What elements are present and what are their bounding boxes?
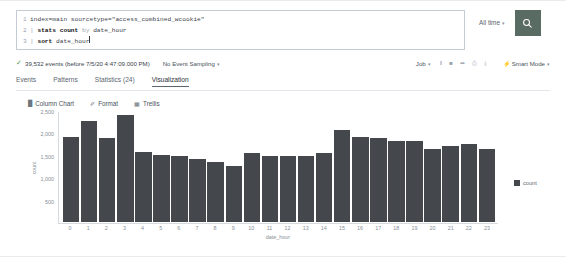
bar-slot bbox=[117, 112, 133, 222]
bar-slot bbox=[352, 112, 368, 222]
event-sampling-label: No Event Sampling bbox=[163, 60, 215, 67]
smart-mode-dropdown[interactable]: ⚡Smart Mode▾ bbox=[503, 60, 550, 67]
x-axis-tick-3: 3 bbox=[116, 225, 133, 231]
bar-21[interactable] bbox=[442, 146, 458, 222]
bar-11[interactable] bbox=[262, 156, 278, 222]
event-sampling-dropdown[interactable]: No Event Sampling▾ bbox=[163, 60, 220, 67]
bar-13[interactable] bbox=[298, 156, 314, 222]
bar-3[interactable] bbox=[117, 115, 133, 222]
y-axis-title: count bbox=[31, 162, 37, 175]
bar-22[interactable] bbox=[461, 144, 477, 222]
chevron-down-icon: ▾ bbox=[217, 61, 220, 67]
job-menu-dropdown[interactable]: Job▾ bbox=[416, 60, 431, 67]
bar-slot bbox=[226, 112, 242, 222]
pause-icon[interactable]: ‖ bbox=[440, 60, 442, 66]
bar-slot bbox=[370, 112, 386, 222]
bar-slot bbox=[262, 112, 278, 222]
search-line-3-command: sort bbox=[37, 36, 52, 47]
search-line-3-field: date_hour bbox=[52, 36, 89, 47]
job-control-icons: ‖ ■ ➦ ⎙ ⤓ bbox=[440, 60, 487, 66]
tab-visualization[interactable]: Visualization bbox=[152, 76, 189, 87]
search-icon bbox=[522, 18, 533, 29]
chart-toolbar: █ Column Chart ✐ Format ▦ Trellis bbox=[28, 97, 176, 109]
search-query-input[interactable]: 1 index=main sourcetype="access_combined… bbox=[16, 10, 465, 50]
bar-1[interactable] bbox=[81, 121, 97, 222]
search-submit-button[interactable] bbox=[515, 10, 541, 36]
tab-statistics[interactable]: Statistics (24) bbox=[95, 76, 135, 86]
bar-slot bbox=[63, 112, 79, 222]
bar-10[interactable] bbox=[244, 153, 260, 222]
x-axis-tick-0: 0 bbox=[62, 225, 79, 231]
x-axis-tick-12: 12 bbox=[279, 225, 296, 231]
x-axis-tick-11: 11 bbox=[261, 225, 278, 231]
stop-icon[interactable]: ■ bbox=[449, 60, 453, 66]
y-axis-tick-1000: 1,000 bbox=[41, 176, 55, 182]
bar-slot bbox=[207, 112, 223, 222]
search-line-3: 3 | sort date_hour bbox=[20, 36, 460, 47]
bar-0[interactable] bbox=[63, 137, 79, 222]
share-icon[interactable]: ➦ bbox=[460, 60, 465, 66]
chart-type-selector[interactable]: █ Column Chart bbox=[28, 100, 74, 107]
bar-6[interactable] bbox=[171, 156, 187, 222]
time-range-label: All time bbox=[479, 19, 500, 26]
x-axis-tick-14: 14 bbox=[316, 225, 333, 231]
bar-2[interactable] bbox=[99, 138, 115, 222]
bar-7[interactable] bbox=[189, 159, 205, 222]
download-icon[interactable]: ⤓ bbox=[484, 60, 487, 66]
bar-5[interactable] bbox=[153, 155, 169, 222]
bar-slot bbox=[99, 112, 115, 222]
column-chart: count 5001,0001,5002,0002,500 0123456789… bbox=[16, 112, 550, 244]
x-axis-tick-8: 8 bbox=[207, 225, 224, 231]
bar-4[interactable] bbox=[135, 152, 151, 222]
text-cursor bbox=[89, 36, 90, 43]
search-line-2-keyword: by bbox=[78, 25, 93, 36]
time-range-picker[interactable]: All time▾ bbox=[479, 10, 505, 36]
chart-format-label: Format bbox=[98, 100, 118, 107]
bar-19[interactable] bbox=[406, 141, 422, 222]
search-line-2: 2 | stats count by date_hour bbox=[20, 25, 460, 36]
line-number-1: 1 bbox=[20, 14, 30, 25]
bar-slot bbox=[244, 112, 260, 222]
line-number-2: 2 bbox=[20, 25, 30, 36]
page-top-border bbox=[0, 0, 566, 1]
bar-slot bbox=[316, 112, 332, 222]
x-axis-tick-labels: 01234567891011121314151617181920212223 bbox=[59, 225, 498, 231]
bar-slot bbox=[461, 112, 477, 222]
bar-15[interactable] bbox=[334, 130, 350, 222]
bolt-icon: ⚡ bbox=[503, 60, 511, 67]
tab-events[interactable]: Events bbox=[16, 76, 36, 86]
bar-8[interactable] bbox=[207, 162, 223, 222]
bar-18[interactable] bbox=[388, 141, 404, 222]
format-icon: ✐ bbox=[90, 100, 95, 107]
chart-format-button[interactable]: ✐ Format bbox=[90, 100, 118, 107]
bar-12[interactable] bbox=[280, 156, 296, 222]
bar-slot bbox=[189, 112, 205, 222]
legend-swatch-count bbox=[514, 180, 520, 186]
y-axis-tick-500: 500 bbox=[45, 199, 54, 205]
print-icon[interactable]: ⎙ bbox=[472, 60, 477, 66]
bar-17[interactable] bbox=[370, 138, 386, 222]
bar-16[interactable] bbox=[352, 137, 368, 222]
bar-20[interactable] bbox=[424, 149, 440, 222]
x-axis-tick-6: 6 bbox=[171, 225, 188, 231]
chart-trellis-label: Trellis bbox=[143, 100, 160, 107]
event-count-label: 39,532 events (before 7/5/20 4:47:09.000… bbox=[25, 60, 150, 67]
bar-9[interactable] bbox=[226, 166, 242, 222]
chevron-down-icon: ▾ bbox=[428, 61, 431, 67]
bar-series bbox=[60, 112, 498, 222]
tab-patterns[interactable]: Patterns bbox=[53, 76, 78, 86]
x-axis-tick-7: 7 bbox=[189, 225, 206, 231]
y-axis: count 5001,0001,5002,0002,500 bbox=[32, 112, 56, 224]
bar-slot bbox=[280, 112, 296, 222]
plot-area bbox=[58, 112, 498, 224]
search-line-3-pipe: | bbox=[30, 36, 37, 47]
bar-slot bbox=[406, 112, 422, 222]
chevron-down-icon: ▾ bbox=[547, 61, 550, 67]
x-axis-tick-1: 1 bbox=[80, 225, 97, 231]
x-axis-title: date_hour bbox=[58, 234, 498, 240]
trellis-icon: ▦ bbox=[134, 100, 140, 107]
bar-14[interactable] bbox=[316, 153, 332, 222]
bar-23[interactable] bbox=[479, 149, 495, 222]
chart-trellis-button[interactable]: ▦ Trellis bbox=[134, 100, 160, 107]
bar-slot bbox=[135, 112, 151, 222]
